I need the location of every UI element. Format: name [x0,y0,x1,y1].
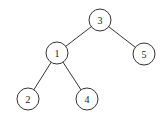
tree-node-3: 3 [89,9,111,31]
edges [28,20,144,99]
node-label: 3 [98,15,103,26]
node-label: 5 [142,49,147,60]
tree-diagram: 3 1 5 2 4 [0,0,166,121]
tree-node-1: 1 [46,42,68,64]
node-label: 1 [55,48,60,59]
tree-node-5: 5 [133,43,155,65]
node-label: 4 [85,94,90,105]
tree-node-4: 4 [76,88,98,110]
node-label: 2 [26,94,31,105]
tree-node-2: 2 [17,88,39,110]
